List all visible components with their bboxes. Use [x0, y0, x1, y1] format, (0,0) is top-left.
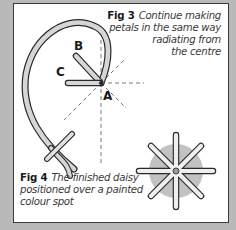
fig3-number: Fig 3 [107, 10, 134, 21]
fig4-caption-line: positioned over a painted [20, 184, 150, 196]
fig3-caption-line: Continue making [139, 10, 221, 21]
label-a: A [103, 89, 112, 103]
fig4-caption-line: The finished daisy [51, 172, 138, 183]
fig4-caption: Fig 4The finished daisy positioned over … [20, 172, 150, 208]
fig3-caption: Fig 3Continue making petals in the same … [101, 10, 221, 58]
daisy-centre [173, 168, 179, 174]
fig3-caption-line: the centre [101, 46, 221, 58]
fig4-caption-line: colour spot [20, 196, 150, 208]
fig3-caption-line: petals in the same way [101, 22, 221, 34]
thread-loop [25, 23, 108, 169]
fig3-caption-line: radiating from [101, 34, 221, 46]
illustration-panel: B C A Fig 3Continue making petals in the… [13, 3, 229, 223]
fig4-daisy [139, 135, 213, 207]
fig4-number: Fig 4 [20, 172, 47, 183]
label-c: C [56, 65, 65, 79]
label-b: B [74, 39, 83, 53]
